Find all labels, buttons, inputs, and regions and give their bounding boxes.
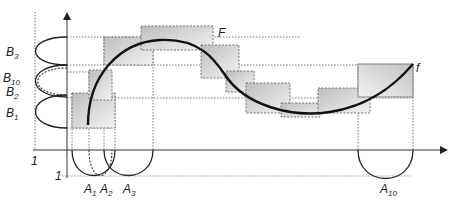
y-membership-one: 1 xyxy=(55,169,62,183)
label-a10: A10 xyxy=(379,182,397,198)
x-membership-one: 1 xyxy=(31,154,38,168)
x-fuzzy-sets xyxy=(72,150,413,179)
label-b2: B2 xyxy=(6,85,19,101)
y-fuzzy-sets xyxy=(36,37,68,128)
label-b1: B1 xyxy=(6,106,18,122)
b1-membership xyxy=(36,95,68,128)
label-a1: A1 xyxy=(83,182,96,198)
b3-membership xyxy=(36,37,68,65)
diagram-canvas: F f B3 B10 B2 B1 1 1 A1 A2 A3 A10 xyxy=(0,0,463,201)
fuzzy-graph-label: F xyxy=(218,26,226,40)
box-8 xyxy=(281,103,320,117)
label-b3: B3 xyxy=(6,45,19,61)
a2-membership xyxy=(89,150,112,176)
box-a10-b10 xyxy=(358,64,413,97)
relation-boxes xyxy=(72,26,413,128)
function-label: f xyxy=(416,61,421,75)
fuzzy-graph-diagram: F f B3 B10 B2 B1 1 1 A1 A2 A3 A10 xyxy=(0,0,463,201)
label-a2: A2 xyxy=(99,182,113,198)
label-a3: A3 xyxy=(122,182,136,198)
a10-membership xyxy=(358,150,413,179)
